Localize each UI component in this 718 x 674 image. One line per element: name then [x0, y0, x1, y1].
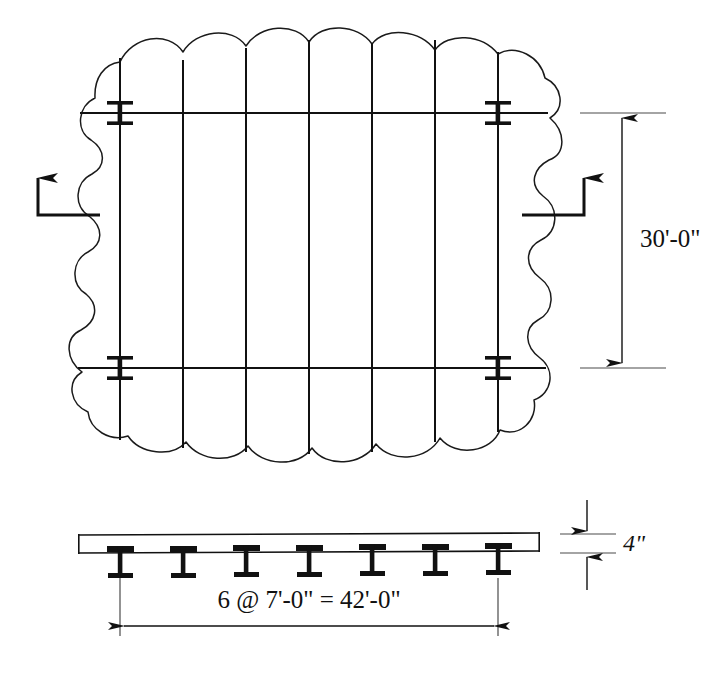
- structural-drawing-canvas: 30'-0": [0, 0, 718, 674]
- section-i-beam: [485, 543, 512, 575]
- girder-group: [78, 113, 548, 368]
- dimension-slab-thickness: 4": [560, 500, 646, 590]
- section-cut-left: [38, 178, 100, 215]
- section-i-beam: [422, 544, 449, 576]
- section-view: [78, 532, 540, 578]
- dimension-label-height: 30'-0": [640, 225, 701, 252]
- framing-drawing-svg: 30'-0": [0, 0, 718, 674]
- dimension-label-spacing: 6 @ 7'-0" = 42'-0": [217, 586, 400, 614]
- dimension-vertical-30ft: 30'-0": [580, 113, 701, 368]
- section-i-beam: [233, 545, 260, 577]
- section-i-beam: [170, 546, 197, 578]
- slab-top-line: [78, 533, 540, 535]
- section-i-beam: [359, 544, 386, 576]
- section-beam-group: [107, 543, 512, 578]
- section-i-beam: [107, 546, 134, 578]
- break-boundary-cloud: [69, 28, 562, 462]
- joist-group: [120, 40, 498, 454]
- plan-view: [38, 28, 584, 462]
- section-i-beam: [296, 545, 323, 577]
- dimension-label-thickness: 4": [623, 530, 646, 556]
- dimension-horizontal-spacing: 6 @ 7'-0" = 42'-0": [120, 578, 498, 636]
